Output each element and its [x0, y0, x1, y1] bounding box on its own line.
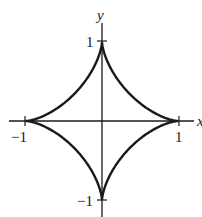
- astroid-plot: y x 1 −1 −1 1: [0, 0, 202, 217]
- x-axis-label: x: [196, 113, 202, 129]
- x-tick-label-pos-one: 1: [175, 129, 183, 145]
- y-axis-label: y: [95, 7, 104, 23]
- y-tick-label-pos-one: 1: [86, 34, 94, 50]
- x-tick-label-neg-one: −1: [11, 129, 27, 145]
- y-tick-label-neg-one: −1: [77, 193, 93, 209]
